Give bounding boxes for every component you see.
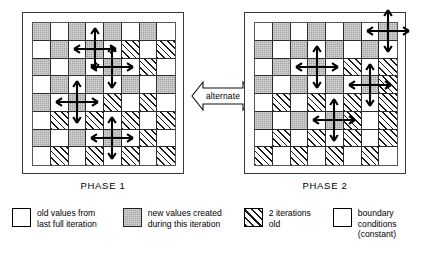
cell-two-iterations-old [344, 112, 362, 130]
cell-old-value [104, 112, 122, 130]
cell-two-iterations-old [255, 147, 273, 165]
cell-new-value [33, 130, 51, 148]
phase-1-grid [33, 23, 175, 165]
cell-new-value [326, 76, 344, 94]
cell-two-iterations-old [104, 94, 122, 112]
cell-two-iterations-old [379, 130, 397, 148]
cell-new-value [104, 59, 122, 77]
cell-new-value [51, 41, 69, 59]
cell-old-value [379, 147, 397, 165]
cell-old-value [69, 147, 87, 165]
cell-old-value [326, 23, 344, 41]
cell-two-iterations-old [308, 94, 326, 112]
cell-two-iterations-old [86, 147, 104, 165]
cell-old-value [51, 94, 69, 112]
cell-old-value [33, 76, 51, 94]
cell-old-value [140, 76, 158, 94]
cell-new-value [140, 23, 158, 41]
legend-swatch-white-boundary [333, 208, 352, 227]
cell-old-value [122, 130, 140, 148]
cell-new-value [69, 130, 87, 148]
cell-old-value [291, 59, 309, 77]
cell-new-value [86, 76, 104, 94]
legend-swatch-gray-new [123, 208, 142, 227]
cell-two-iterations-old [326, 147, 344, 165]
cell-two-iterations-old [86, 112, 104, 130]
cell-two-iterations-old [122, 112, 140, 130]
phase-2-grid [255, 23, 397, 165]
cell-two-iterations-old [51, 112, 69, 130]
cell-old-value [157, 23, 175, 41]
cell-old-value [326, 130, 344, 148]
cell-new-value [157, 76, 175, 94]
cell-two-iterations-old [122, 41, 140, 59]
cell-old-value [157, 94, 175, 112]
cell-old-value [104, 147, 122, 165]
cell-new-value [273, 59, 291, 77]
cell-old-value [273, 112, 291, 130]
cell-old-value [86, 59, 104, 77]
cell-old-value [69, 76, 87, 94]
cell-two-iterations-old [379, 76, 397, 94]
cell-two-iterations-old [122, 147, 140, 165]
phase-2-panel [244, 12, 406, 174]
legend-item-old-values: old values from last full iteration [12, 207, 97, 229]
cell-two-iterations-old [379, 112, 397, 130]
cell-new-value [104, 23, 122, 41]
cell-old-value [33, 112, 51, 130]
phase-1-caption: PHASE 1 [22, 180, 184, 191]
cell-old-value [273, 147, 291, 165]
cell-two-iterations-old [157, 41, 175, 59]
legend-label-new-values: new values created during this iteration [148, 207, 222, 229]
legend-item-two-iterations-old: 2 iterations old [244, 207, 311, 229]
legend-label-boundary-conditions: boundary conditions (constant) [358, 207, 397, 240]
cell-new-value [308, 23, 326, 41]
cell-old-value [362, 94, 380, 112]
cell-old-value [362, 59, 380, 77]
cell-new-value [291, 112, 309, 130]
cell-new-value [69, 23, 87, 41]
cell-old-value [308, 41, 326, 59]
cell-old-value [255, 59, 273, 77]
cell-two-iterations-old [379, 59, 397, 77]
cell-old-value [291, 23, 309, 41]
cell-old-value [344, 147, 362, 165]
cell-old-value [86, 94, 104, 112]
cell-two-iterations-old [140, 59, 158, 77]
cell-two-iterations-old [344, 130, 362, 148]
cell-old-value [308, 112, 326, 130]
cell-old-value [273, 76, 291, 94]
cell-old-value [86, 23, 104, 41]
cell-old-value [157, 59, 175, 77]
cell-old-value [104, 76, 122, 94]
cell-old-value [255, 130, 273, 148]
cell-new-value [362, 41, 380, 59]
cell-two-iterations-old [291, 147, 309, 165]
cell-new-value [379, 23, 397, 41]
cell-old-value [362, 130, 380, 148]
phase-2-caption: PHASE 2 [244, 180, 406, 191]
cell-old-value [273, 41, 291, 59]
cell-new-value [33, 94, 51, 112]
cell-old-value [51, 59, 69, 77]
cell-two-iterations-old [344, 59, 362, 77]
cell-new-value [255, 41, 273, 59]
cell-new-value [255, 112, 273, 130]
cell-new-value [326, 41, 344, 59]
cell-two-iterations-old [344, 94, 362, 112]
cell-old-value [157, 130, 175, 148]
legend-label-old-values: old values from last full iteration [37, 207, 97, 229]
cell-new-value [33, 59, 51, 77]
cell-old-value [51, 130, 69, 148]
legend-item-new-values: new values created during this iteration [123, 207, 222, 229]
cell-new-value [308, 59, 326, 77]
cell-old-value [140, 112, 158, 130]
cell-two-iterations-old [157, 112, 175, 130]
cell-new-value [273, 23, 291, 41]
cell-two-iterations-old [157, 147, 175, 165]
cell-two-iterations-old [362, 147, 380, 165]
cell-old-value [344, 76, 362, 94]
cell-old-value [326, 59, 344, 77]
cell-old-value [308, 76, 326, 94]
cell-old-value [122, 23, 140, 41]
